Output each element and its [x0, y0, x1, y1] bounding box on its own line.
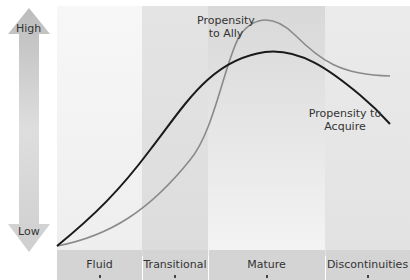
curves	[0, 0, 410, 280]
annotation-propensity-to-ally: Propensity to Ally	[188, 14, 264, 40]
annotation-propensity-to-acquire: Propensity to Acquire	[300, 107, 390, 133]
propensity-to-ally-curve	[57, 20, 390, 246]
chart-stage: Fluid Transitional Mature Discontinuitie…	[0, 0, 410, 280]
